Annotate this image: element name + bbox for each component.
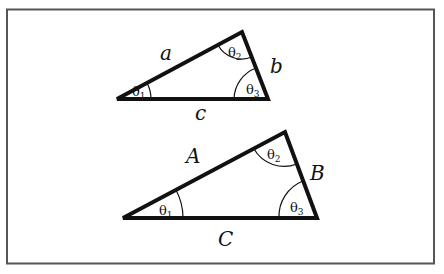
similar-triangles-diagram: θ1 θ2 θ3 a b c θ1 θ2 θ3 A B C [0,0,444,274]
side-a-label: a [160,41,172,65]
side-b-label: b [270,54,283,78]
side-B-label: B [309,161,325,185]
side-A-label: A [184,144,200,168]
side-c-label: c [195,101,206,125]
diagram-frame [7,10,434,264]
side-C-label: C [218,227,233,251]
